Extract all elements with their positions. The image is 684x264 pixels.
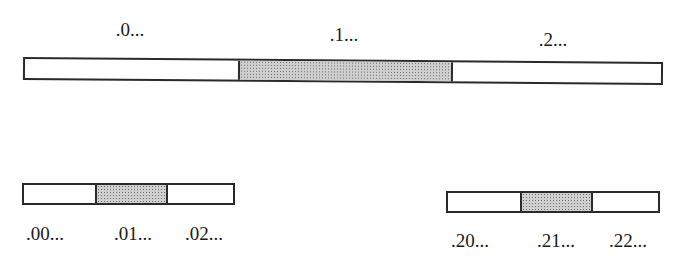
segment-label-00: .00... (26, 224, 64, 243)
segment-label-22: .22... (609, 231, 647, 250)
segment-label-02: .02... (185, 224, 223, 243)
segment-label-21: .21... (537, 231, 575, 250)
segment-label-2: .2... (539, 30, 568, 49)
segment-label-01: .01... (114, 224, 152, 243)
segment-20 (448, 193, 520, 211)
segment-00 (24, 185, 95, 203)
segment-label-20: .20... (451, 231, 489, 250)
segment-01-shaded (95, 185, 166, 203)
segment-2 (451, 62, 661, 83)
segment-0 (25, 59, 238, 80)
subdivision-bar-0 (22, 183, 235, 205)
segment-21-shaded (520, 193, 591, 211)
top-level-bar (23, 57, 663, 85)
segment-22 (591, 193, 658, 211)
segment-label-1: .1... (330, 25, 359, 44)
subdivision-bar-2 (446, 191, 660, 213)
segment-1-shaded (238, 61, 451, 82)
segment-label-0: .0... (116, 20, 145, 39)
segment-02 (166, 185, 233, 203)
